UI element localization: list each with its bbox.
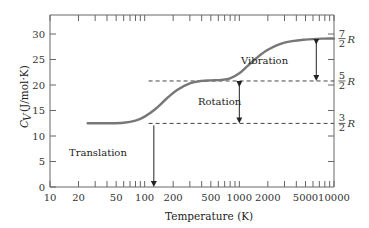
x-tick-label: 10000 [318, 192, 350, 203]
fraction-denominator: 2 [339, 122, 345, 133]
translation-label: Translation [69, 147, 127, 158]
x-tick-label: 50 [110, 192, 123, 203]
vibration-label: Vibration [240, 55, 289, 66]
y-tick-label: 10 [32, 131, 45, 142]
right-axis-label: 52R [339, 70, 356, 91]
y-tick-label: 0 [39, 182, 45, 193]
x-tick-label: 100 [135, 192, 154, 203]
x-axis-title: Temperature (K) [165, 210, 253, 222]
y-tick-label: 25 [32, 54, 45, 65]
fraction-denominator: 2 [339, 80, 345, 91]
y-axis-ticks: 051015202530 [32, 29, 56, 193]
y-tick-label: 15 [32, 105, 45, 116]
x-axis-ticks: 10205010020050010002000500010000 [44, 15, 350, 203]
x-tick-label: 10 [44, 192, 57, 203]
cv-temperature-chart: 10205010020050010002000500010000 0510152… [0, 0, 369, 228]
reference-lines [149, 81, 334, 123]
x-tick-label: 5000 [293, 192, 318, 203]
gas-constant-symbol: R [347, 76, 356, 87]
y-tick-label: 20 [32, 80, 45, 91]
gas-constant-symbol: R [347, 34, 356, 45]
right-axis-label: 72R [339, 28, 356, 49]
right-axis-label: 32R [339, 112, 356, 133]
y-axis-title-units: (J/mol·K) [18, 65, 30, 112]
x-tick-label: 20 [72, 192, 85, 203]
right-axis-ticks [328, 34, 334, 162]
y-tick-label: 5 [39, 156, 45, 167]
y-axis-title-subscript: V [21, 112, 33, 121]
gas-constant-symbol: R [347, 118, 356, 129]
y-axis-title: C V (J/mol·K) [18, 65, 33, 128]
rotation-label: Rotation [198, 96, 242, 107]
y-tick-label: 30 [32, 29, 45, 40]
x-tick-label: 500 [201, 192, 220, 203]
x-tick-label: 200 [164, 192, 183, 203]
fraction-denominator: 2 [339, 38, 345, 49]
x-tick-label: 1000 [227, 192, 252, 203]
energy-mode-arrows [154, 42, 316, 184]
right-axis-labels: 32R52R72R [339, 28, 356, 134]
x-tick-label: 2000 [255, 192, 280, 203]
